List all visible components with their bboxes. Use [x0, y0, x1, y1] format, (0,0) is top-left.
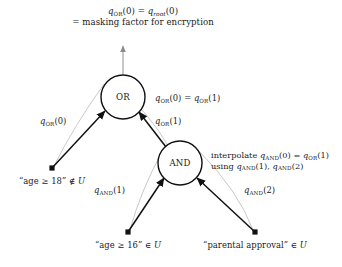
and-right-sub: AND: [249, 190, 263, 196]
or-node-label: OR: [116, 92, 130, 102]
parental-set: U: [300, 240, 307, 250]
edge-label-or-left: qOR(0): [40, 116, 66, 127]
and-annot-sub1: AND: [265, 155, 279, 161]
and-annot-sub2: OR: [308, 155, 317, 161]
edge-label-or-right: qOR(1): [155, 116, 181, 127]
and-left-sub: AND: [99, 190, 113, 196]
and-annot-pre2: using: [211, 161, 237, 171]
or-left-arg: (0): [54, 116, 66, 126]
leaf18-rel: ∉: [66, 176, 78, 186]
and-annot-arg4: (2): [292, 161, 304, 171]
root-annotation-line1: qOR(0) = qroot(0): [72, 6, 213, 17]
root-annotation: qOR(0) = qroot(0) = masking factor for e…: [72, 6, 213, 28]
access-tree-diagram: OR AND qOR(0) = qroot(0) = masking facto…: [0, 0, 342, 267]
leaf18-set: U: [78, 176, 85, 186]
and-node-label: AND: [169, 158, 190, 168]
root-qroot-subscript: root: [153, 11, 165, 17]
and-annot-arg3: (1),: [256, 161, 273, 171]
edge-label-and-left: qAND(1): [94, 185, 125, 196]
parental-quote: “parental approval”: [203, 240, 288, 250]
leaf16-quote: “age ≥ 16”: [95, 240, 142, 250]
or-right-sub: OR: [160, 121, 169, 127]
leaf16-rel: ∈: [142, 240, 154, 250]
root-q-subscript: OR: [114, 11, 123, 17]
or-out-sub1: OR: [160, 98, 169, 104]
leaf-dot-parental-approval[interactable]: [252, 229, 257, 234]
leaf-dot-age-16[interactable]: [125, 229, 130, 234]
or-out-sub2: OR: [199, 98, 208, 104]
leaf-dot-age-18[interactable]: [49, 165, 54, 170]
leaf-label-age-18: “age ≥ 18” ∉ U: [19, 176, 85, 187]
edge-label-and-right: qAND(2): [244, 185, 275, 196]
and-left-arg: (1): [113, 185, 125, 195]
and-annot-arg2: (1): [317, 150, 329, 160]
or-out-arg1: (0) =: [169, 93, 194, 103]
diagram-canvas: [0, 0, 342, 267]
and-right-arg: (2): [263, 185, 275, 195]
and-annotation-line1: interpolate qAND(0) = qOR(1): [211, 150, 329, 161]
or-left-sub: OR: [45, 121, 54, 127]
and-annot-sub3: AND: [242, 165, 256, 171]
or-output-label: qOR(0) = qOR(1): [155, 93, 220, 104]
leaf18-quote: “age ≥ 18”: [19, 176, 66, 186]
edge-leaf16-to-and: [128, 178, 164, 232]
or-out-arg2: (1): [208, 93, 220, 103]
leaf-label-age-16: “age ≥ 16” ∈ U: [95, 240, 161, 251]
and-interpolation-annotation: interpolate qAND(0) = qOR(1) using qAND(…: [211, 150, 329, 171]
root-annotation-line2: = masking factor for encryption: [72, 17, 213, 28]
and-annot-arg1: (0) =: [279, 150, 303, 160]
and-annot-sub4: AND: [278, 165, 292, 171]
and-annot-pre1: interpolate: [211, 150, 260, 160]
and-annotation-line2: using qAND(1), qAND(2): [211, 161, 329, 172]
root-q-arg: (0) =: [123, 6, 148, 16]
leaf-label-parental-approval: “parental approval” ∈ U: [203, 240, 307, 251]
or-right-arg: (1): [169, 116, 181, 126]
parental-rel: ∈: [288, 240, 300, 250]
leaf16-set: U: [154, 240, 161, 250]
root-qroot-arg: (0): [166, 6, 178, 16]
